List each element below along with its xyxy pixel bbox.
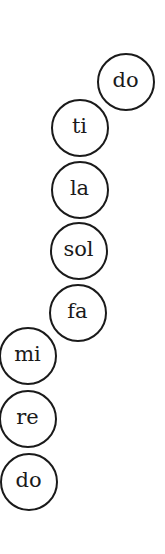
note-label: ti [72, 116, 87, 137]
note-label: do [112, 70, 138, 91]
note-do-low: do [0, 453, 58, 511]
note-label: la [70, 178, 89, 199]
note-label: re [16, 407, 38, 428]
note-re: re [0, 390, 57, 448]
note-fa: fa [49, 284, 107, 342]
note-label: mi [14, 344, 41, 365]
note-label: sol [63, 239, 93, 260]
note-label: do [15, 470, 41, 491]
note-sol: sol [50, 222, 108, 280]
note-label: fa [67, 301, 87, 322]
note-la: la [51, 161, 109, 219]
note-ti: ti [51, 99, 109, 157]
note-do-high: do [97, 53, 155, 111]
note-mi: mi [0, 327, 57, 385]
